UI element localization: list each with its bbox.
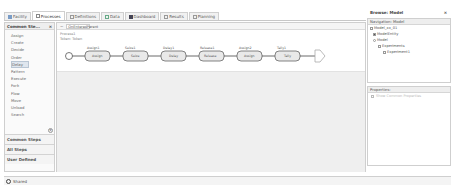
step-list: Assign Create Decide Order Delay Pattern… <box>5 30 54 134</box>
expand-icon <box>371 95 374 98</box>
svg-text:Assign: Assign <box>244 54 254 58</box>
facility-icon <box>8 15 12 19</box>
results-icon <box>164 15 168 19</box>
svg-text:Release: Release <box>204 54 216 58</box>
steps-panel-header: Common Ste... × <box>5 23 54 30</box>
step-node-seize1[interactable]: Seize1 Seize <box>123 46 148 61</box>
folder-icon <box>378 45 381 48</box>
token-label: Token: Token <box>60 37 82 42</box>
status-bar: Shared <box>4 176 451 185</box>
definitions-icon <box>70 15 74 19</box>
process-meta: Process1 Token: Token <box>60 32 82 42</box>
process-canvas[interactable]: − OnEnteredParent Process1 Token: Token … <box>56 22 366 172</box>
step-item-flow[interactable]: Flow <box>11 90 54 97</box>
svg-text:Assign: Assign <box>92 54 102 58</box>
svg-text:Seize1: Seize1 <box>125 46 136 50</box>
entity-icon <box>373 33 376 36</box>
step-item-decide[interactable]: Decide <box>11 46 54 53</box>
step-node-release1[interactable]: Release1 Release <box>199 46 224 61</box>
begin-node[interactable] <box>66 53 73 60</box>
tab-definitions[interactable]: Definitions <box>66 12 100 20</box>
tab-data[interactable]: Data <box>101 12 124 20</box>
step-item-fork[interactable]: Fork <box>11 82 54 89</box>
step-item-assign[interactable]: Assign <box>11 32 54 39</box>
step-node-delay1[interactable]: Delay1 Delay <box>161 46 186 61</box>
svg-text:Assign1: Assign1 <box>87 46 99 50</box>
browse-panel-header: Browse: Model × <box>367 9 451 17</box>
tab-processes[interactable]: Processes <box>32 11 65 20</box>
svg-text:Tally: Tally <box>283 54 291 58</box>
browse-panel: Browse: Model × Navigation: Model Model_… <box>367 9 451 172</box>
properties-panel: Properties: Show Common Properties <box>367 86 451 166</box>
tab-planning[interactable]: Planning <box>189 12 219 20</box>
section-common-steps[interactable]: Common Steps <box>5 134 54 144</box>
dashboard-icon <box>129 15 133 19</box>
svg-text:Delay: Delay <box>169 54 178 58</box>
step-item-move[interactable]: Move <box>11 97 54 104</box>
tab-facility[interactable]: Facility <box>4 12 31 20</box>
planning-icon <box>193 15 197 19</box>
properties-toolbar[interactable]: Show Common Properties <box>368 93 450 99</box>
step-node-tally1[interactable]: Tally1 Tally <box>275 46 300 61</box>
scroll-down-button[interactable]: ▾ <box>48 128 53 133</box>
project-icon <box>370 27 373 30</box>
svg-text:Assign2: Assign2 <box>239 46 251 50</box>
process-flow-diagram: Assign1 Assign Seize1 Seize Delay1 Delay <box>57 43 367 69</box>
navigation-tree: Navigation: Model Model_xx_01 ModelEntit… <box>367 18 451 83</box>
shared-icon <box>6 179 11 184</box>
collapse-icon[interactable]: − <box>60 24 63 29</box>
svg-text:Delay1: Delay1 <box>163 46 174 50</box>
shared-label[interactable]: Shared <box>13 179 27 184</box>
step-item-delay[interactable]: Delay <box>11 61 29 68</box>
tab-bar: Facility Processes Definitions Data Dash… <box>4 12 366 21</box>
process-canvas-lower[interactable] <box>57 71 365 172</box>
section-all-steps[interactable]: All Steps <box>5 144 54 154</box>
steps-panel: Common Ste... × Assign Create Decide Ord… <box>4 22 55 172</box>
tab-dashboard[interactable]: Dashboard <box>125 12 160 20</box>
close-icon[interactable]: × <box>444 9 447 17</box>
end-node[interactable] <box>315 50 325 62</box>
svg-text:Tally1: Tally1 <box>276 46 286 50</box>
step-node-assign1[interactable]: Assign1 Assign <box>85 46 110 61</box>
close-icon[interactable]: × <box>49 24 52 29</box>
step-item-search[interactable]: Search <box>11 111 54 118</box>
process-name-field[interactable]: OnEnteredParent <box>66 24 90 29</box>
svg-text:Release1: Release1 <box>200 46 214 50</box>
svg-text:Seize: Seize <box>131 54 140 58</box>
experiment-icon <box>383 51 386 54</box>
tab-results[interactable]: Results <box>160 12 187 20</box>
step-item-create[interactable]: Create <box>11 39 54 46</box>
section-user-defined[interactable]: User Defined <box>5 154 54 164</box>
step-item-pattern[interactable]: Pattern <box>11 68 54 75</box>
process-header: − OnEnteredParent <box>57 23 365 30</box>
step-item-order[interactable]: Order <box>11 54 54 61</box>
data-icon <box>105 15 109 19</box>
app-window: Facility Processes Definitions Data Dash… <box>0 9 451 192</box>
tree-item-experiment1[interactable]: Experiment1 <box>368 49 450 55</box>
step-item-unload[interactable]: Unload <box>11 104 54 111</box>
step-item-execute[interactable]: Execute <box>11 75 54 82</box>
model-icon <box>373 39 376 42</box>
processes-icon <box>36 14 40 18</box>
step-node-assign2[interactable]: Assign2 Assign <box>237 46 262 61</box>
